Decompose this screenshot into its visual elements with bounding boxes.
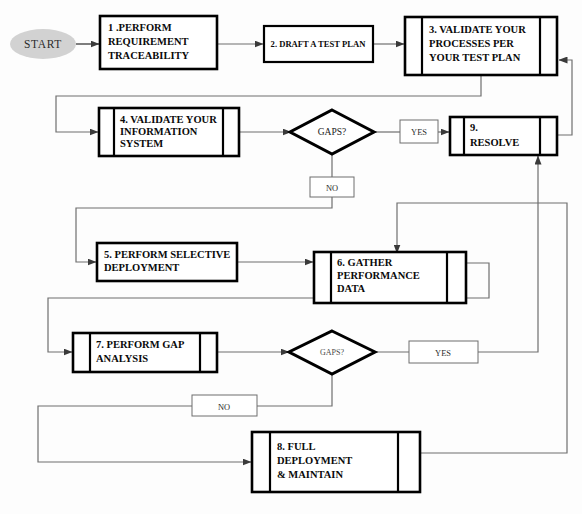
- node-7-perform-gap-analysis[interactable]: 7. PERFORM GAP ANALYSIS: [73, 333, 217, 372]
- yes-2-text: YES: [435, 349, 451, 358]
- edge-label-no-1: NO: [310, 177, 354, 197]
- node-3-line2: PROCESSES PER: [429, 38, 514, 49]
- node-5-perform-selective-deployment[interactable]: 5. PERFORM SELECTIVE DEPLOYMENT: [97, 243, 237, 281]
- node-start[interactable]: START: [10, 29, 76, 59]
- node-1-perform-requirement-traceability[interactable]: 1 .PERFORM REQUIREMENT TRACEABILITY: [100, 16, 217, 69]
- node-1-line2: REQUIREMENT: [108, 36, 189, 47]
- flowchart-canvas: START 1 .PERFORM REQUIREMENT TRACEABILIT…: [0, 0, 582, 514]
- node-1-line1: 1 .PERFORM: [108, 22, 172, 33]
- node-6-line3: DATA: [337, 283, 366, 294]
- edge-yes2-to-9: [478, 156, 538, 352]
- node-3-line3: YOUR TEST PLAN: [429, 52, 521, 63]
- node-2-line1: 2. DRAFT A TEST PLAN: [271, 39, 367, 49]
- node-6-line1: 6. GATHER: [337, 257, 393, 268]
- node-7-line1: 7. PERFORM GAP: [96, 339, 185, 350]
- edge-9-to-3: [558, 60, 572, 135]
- edge-gaps2-no: [257, 374, 332, 406]
- edge-label-yes-2: YES: [409, 341, 478, 363]
- decision-1-label: GAPS?: [318, 127, 347, 137]
- node-4-validate-your-information-system[interactable]: 4. VALIDATE YOUR INFORMATION SYSTEM: [99, 108, 239, 156]
- node-decision-gaps-1[interactable]: GAPS?: [290, 110, 374, 154]
- node-4-line1: 4. VALIDATE YOUR: [120, 114, 217, 125]
- decision-2-label: GAPS?: [320, 348, 344, 357]
- yes-1-text: YES: [411, 128, 427, 137]
- node-5-line2: DEPLOYMENT: [104, 262, 179, 273]
- node-1-line3: TRACEABILITY: [108, 50, 190, 61]
- node-3-validate-your-processes[interactable]: 3. VALIDATE YOUR PROCESSES PER YOUR TEST…: [405, 17, 557, 75]
- node-9-resolve[interactable]: 9. RESOLVE: [450, 117, 557, 155]
- edge-8-right-loop: [397, 203, 567, 453]
- node-8-line2: DEPLOYMENT: [277, 455, 352, 466]
- node-4-line3: SYSTEM: [120, 138, 163, 149]
- no-1-text: NO: [326, 184, 338, 193]
- no-2-text: NO: [218, 403, 230, 412]
- edge-label-yes-1: YES: [400, 120, 438, 143]
- node-9-line1: 9.: [470, 122, 478, 133]
- node-decision-gaps-2[interactable]: GAPS?: [289, 331, 375, 374]
- node-2-draft-a-test-plan[interactable]: 2. DRAFT A TEST PLAN: [264, 26, 373, 62]
- node-4-line2: INFORMATION: [120, 126, 198, 137]
- node-7-line2: ANALYSIS: [96, 353, 148, 364]
- node-8-line1: 8. FULL: [277, 441, 316, 452]
- node-9-line2: RESOLVE: [470, 137, 519, 148]
- edge-label-no-2: NO: [192, 395, 257, 416]
- node-3-line1: 3. VALIDATE YOUR: [429, 24, 526, 35]
- node-6-line2: PERFORMANCE: [337, 270, 420, 281]
- node-8-full-deployment-and-maintain[interactable]: 8. FULL DEPLOYMENT & MAINTAIN: [252, 432, 420, 492]
- node-8-line3: & MAINTAIN: [277, 469, 343, 480]
- start-label: START: [24, 38, 62, 50]
- node-5-line1: 5. PERFORM SELECTIVE: [104, 249, 230, 260]
- node-6-gather-performance-data[interactable]: 6. GATHER PERFORMANCE DATA: [314, 252, 466, 303]
